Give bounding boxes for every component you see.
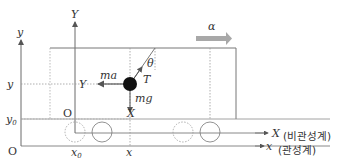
inertial-frame-label: (관성계): [278, 144, 316, 156]
acceleration-arrow: [196, 32, 232, 45]
pendulum-frames-diagram: α y Y y Y ma T θ mg X O y0 O x0 x X (비관성…: [0, 0, 339, 167]
tension-label: T: [143, 73, 152, 86]
inertial-origin-label: O: [8, 145, 17, 158]
wheel-right: [200, 122, 220, 142]
y0-label: y0: [5, 113, 17, 127]
wheel-ghost-right: [173, 122, 193, 142]
noninertial-origin-label: O: [63, 107, 72, 120]
inertial-y-axis-label: y: [16, 26, 24, 39]
pendulum-bob: [123, 77, 137, 91]
Y-coord-label: Y: [79, 78, 88, 91]
x-position-label: x: [126, 146, 133, 159]
gravity-label: mg: [135, 92, 152, 105]
angle-label: θ: [147, 57, 154, 70]
X-coord-label: X: [126, 107, 136, 120]
y-position-label: y: [6, 78, 14, 91]
wheels: [65, 122, 220, 142]
dotted-guides: [21, 48, 210, 146]
x0-label: x0: [71, 146, 82, 160]
acceleration-label: α: [208, 20, 216, 33]
wheel-left: [92, 122, 112, 142]
noninertial-x-axis-label: X: [271, 127, 281, 140]
noninertial-y-axis-label: Y: [71, 8, 80, 21]
inertial-x-axis-label: x: [266, 140, 273, 153]
inertial-force-label: ma: [100, 69, 117, 82]
noninertial-frame-label: (비관성계): [283, 130, 331, 142]
